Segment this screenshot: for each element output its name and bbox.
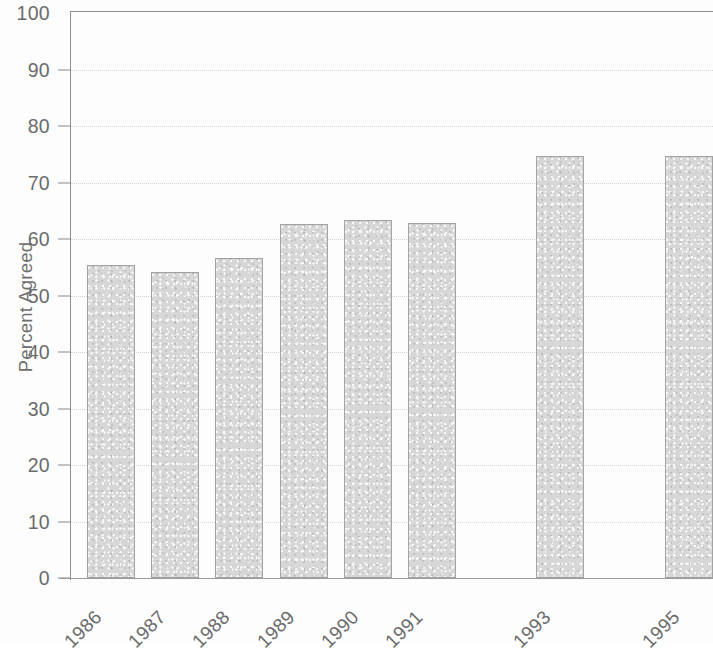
x-axis-tick-label: 1991 — [381, 606, 427, 652]
x-axis-tick-label: 1990 — [317, 606, 363, 652]
x-axis-tick-label: 1989 — [253, 606, 299, 652]
x-axis-tick-label: 1987 — [124, 606, 170, 652]
x-axis-tick-label: 1995 — [638, 606, 684, 652]
x-axis-tick-label: 1986 — [60, 606, 106, 652]
x-axis-tick-label: 1993 — [509, 606, 555, 652]
x-axis-tick-label: 1988 — [188, 606, 234, 652]
